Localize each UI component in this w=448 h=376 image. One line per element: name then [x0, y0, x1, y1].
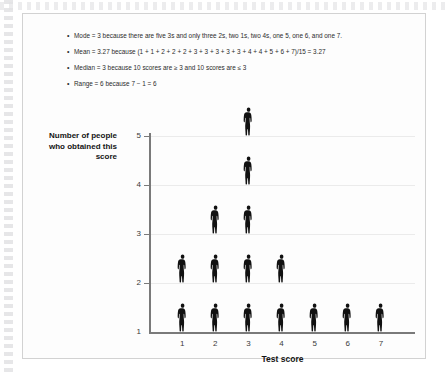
x-axis-title: Test score — [150, 354, 415, 364]
x-axis-tick-label: 5 — [305, 339, 325, 348]
gridline — [150, 234, 415, 235]
gridline — [150, 185, 415, 186]
x-axis-tick-labels: 1234567 — [150, 339, 415, 351]
person-silhouette-icon — [210, 303, 221, 333]
y-axis-tick-label: 4 — [123, 181, 141, 189]
x-axis-tick-label: 2 — [205, 339, 225, 348]
y-axis-tick-mark — [144, 136, 149, 137]
y-axis-tick-label: 2 — [123, 279, 141, 287]
x-axis-tick-label: 4 — [272, 339, 292, 348]
y-axis-tick-label: 5 — [123, 132, 141, 140]
person-silhouette-icon — [243, 156, 254, 186]
gridline — [150, 136, 415, 137]
bullet-marker-icon: • — [67, 28, 74, 44]
y-axis-tick-mark — [144, 283, 149, 284]
person-silhouette-icon — [243, 254, 254, 284]
x-axis-tick-label: 3 — [238, 339, 258, 348]
y-axis-tick-label: 3 — [123, 230, 141, 238]
bullet-marker-icon: • — [67, 44, 74, 60]
statistics-summary-list: • Mode = 3 because there are five 3s and… — [67, 28, 413, 92]
person-silhouette-icon — [243, 205, 254, 235]
person-silhouette-icon — [177, 303, 188, 333]
bullet-marker-icon: • — [67, 60, 74, 76]
page-edge-strip-top — [0, 2, 448, 10]
person-silhouette-icon — [309, 303, 320, 333]
list-item: • Mean = 3.27 because (1 + 1 + 2 + 2 + 2… — [67, 44, 413, 60]
person-silhouette-icon — [276, 303, 287, 333]
figure-panel: • Mode = 3 because there are five 3s and… — [22, 13, 426, 359]
person-silhouette-icon — [276, 254, 287, 284]
bullet-marker-icon: • — [67, 76, 74, 92]
person-silhouette-icon — [177, 254, 188, 284]
person-silhouette-icon — [210, 254, 221, 284]
person-silhouette-icon — [375, 303, 386, 333]
person-silhouette-icon — [210, 205, 221, 235]
x-axis-tick-label: 6 — [338, 339, 358, 348]
x-axis-tick-label: 7 — [371, 339, 391, 348]
list-item: • Mode = 3 because there are five 3s and… — [67, 28, 413, 44]
person-silhouette-icon — [243, 107, 254, 137]
y-axis-tick-label: 1 — [123, 328, 141, 336]
y-axis-tick-mark — [144, 234, 149, 235]
person-silhouette-icon — [342, 303, 353, 333]
y-axis-tick-mark — [144, 185, 149, 186]
y-axis-tick-labels: 12345 — [121, 14, 141, 376]
y-axis-line — [149, 133, 151, 333]
page-edge-strip-left — [4, 0, 13, 376]
x-axis-tick-label: 1 — [172, 339, 192, 348]
list-item: • Median = 3 because 10 scores are ≥ 3 a… — [67, 60, 413, 76]
y-axis-title: Number of people who obtained this score — [49, 131, 117, 163]
person-silhouette-icon — [243, 303, 254, 333]
list-item: • Range = 6 because 7 − 1 = 6 — [67, 76, 413, 92]
